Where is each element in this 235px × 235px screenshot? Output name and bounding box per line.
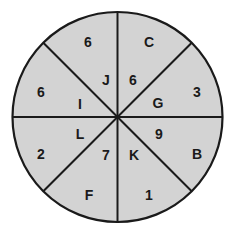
segmented-circle-diagram: 6 J 6 I C 6 G 3 L 7 K 9 2 B F 1 bbox=[0, 0, 235, 235]
sector-label: 7 bbox=[102, 147, 110, 163]
sector-label: J bbox=[102, 72, 110, 88]
sector-label: 1 bbox=[145, 187, 153, 203]
sector-label: C bbox=[144, 34, 154, 50]
sector-label: 6 bbox=[37, 84, 45, 100]
sector-label: G bbox=[153, 95, 164, 111]
sector-label: 6 bbox=[129, 72, 137, 88]
sector-label: F bbox=[85, 187, 94, 203]
sector-label: L bbox=[76, 126, 85, 142]
sector-label: B bbox=[192, 146, 202, 162]
sector-label: 2 bbox=[37, 146, 45, 162]
sector-label: 9 bbox=[155, 126, 163, 142]
sector-label: 6 bbox=[84, 34, 92, 50]
sector-label: I bbox=[78, 96, 82, 112]
sector-label: K bbox=[129, 147, 139, 163]
sector-label: 3 bbox=[193, 84, 201, 100]
